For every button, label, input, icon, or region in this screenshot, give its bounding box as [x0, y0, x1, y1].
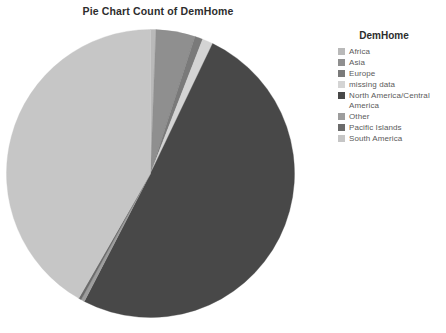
legend-swatch-icon — [338, 81, 345, 88]
legend-item[interactable]: Europe — [332, 69, 444, 79]
legend-item-label: Asia — [349, 58, 365, 68]
pie-svg — [6, 29, 295, 318]
pie-plot-area — [6, 29, 295, 318]
legend-item-label: Africa — [349, 47, 370, 57]
legend-swatch-icon — [338, 135, 345, 142]
legend-swatch-icon — [338, 92, 345, 99]
legend: DemHome AfricaAsiaEuropemissing dataNort… — [332, 30, 444, 145]
legend-swatch-icon — [338, 48, 345, 55]
legend-item-label: Other — [349, 112, 370, 122]
pie-chart-figure: Pie Chart Count of DemHome DemHome Afric… — [0, 0, 446, 333]
legend-item[interactable]: missing data — [332, 80, 444, 90]
legend-item[interactable]: Africa — [332, 47, 444, 57]
legend-item-label: missing data — [349, 80, 395, 90]
legend-items-list: AfricaAsiaEuropemissing dataNorth Americ… — [332, 47, 444, 144]
legend-item[interactable]: Pacific Islands — [332, 123, 444, 133]
legend-swatch-icon — [338, 70, 345, 77]
legend-item-label: South America — [349, 134, 402, 144]
legend-title: DemHome — [334, 30, 434, 41]
legend-item-label: North America/Central America — [349, 91, 444, 111]
legend-item[interactable]: Other — [332, 112, 444, 122]
legend-swatch-icon — [338, 124, 345, 131]
chart-title: Pie Chart Count of DemHome — [0, 5, 316, 17]
legend-item[interactable]: South America — [332, 134, 444, 144]
legend-item-label: Pacific Islands — [349, 123, 402, 133]
pie-slices-group — [6, 30, 294, 318]
legend-item-label: Europe — [349, 69, 375, 79]
legend-item[interactable]: Asia — [332, 58, 444, 68]
legend-swatch-icon — [338, 59, 345, 66]
legend-item[interactable]: North America/Central America — [332, 91, 444, 111]
legend-swatch-icon — [338, 113, 345, 120]
